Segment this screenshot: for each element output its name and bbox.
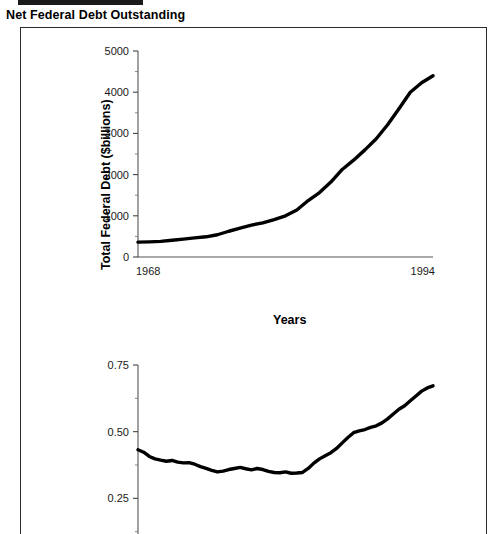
svg-text:0.25: 0.25	[108, 492, 129, 504]
chart-federal-debt-gnp: 0.250.500.75 Federal Debt / GNP	[21, 318, 488, 534]
svg-text:0.75: 0.75	[108, 359, 129, 371]
svg-text:5000: 5000	[105, 45, 129, 57]
ratio-chart-svg: 0.250.500.75	[21, 318, 488, 534]
debt-chart-svg: 01000200030004000500019681994	[21, 28, 488, 318]
svg-text:1994: 1994	[411, 265, 435, 277]
chart-total-federal-debt: 01000200030004000500019681994 Total Fede…	[21, 28, 488, 318]
svg-text:0.50: 0.50	[108, 426, 129, 438]
svg-text:4000: 4000	[105, 86, 129, 98]
ratio-series-line	[138, 386, 433, 473]
debt-series-line	[138, 76, 433, 242]
figure-title: Net Federal Debt Outstanding	[6, 8, 185, 22]
svg-text:0: 0	[123, 251, 129, 263]
figure-panel: 01000200030004000500019681994 Total Fede…	[20, 27, 487, 534]
debt-axes	[133, 51, 433, 257]
top-black-rule	[18, 0, 143, 5]
debt-y-axis-title: Total Federal Debt ($billions)	[99, 99, 113, 270]
ratio-tick-labels: 0.250.500.75	[108, 359, 129, 504]
svg-text:1968: 1968	[136, 265, 160, 277]
